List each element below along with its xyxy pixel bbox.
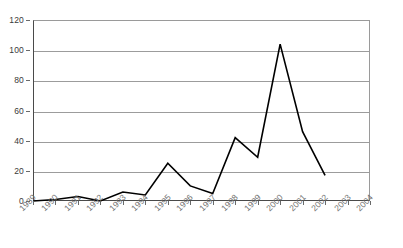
series-line-layer [33, 20, 370, 201]
y-tick-mark-20 [26, 171, 30, 172]
x-axis-labels: 1989199019911992199319941995199619971998… [33, 206, 370, 248]
y-tick-mark-60 [26, 111, 30, 112]
y-tick-mark-40 [26, 141, 30, 142]
y-tick-mark-100 [26, 50, 30, 51]
y-tick-label-20: 20 [14, 166, 24, 176]
y-tick-mark-80 [26, 80, 30, 81]
y-tick-label-60: 60 [14, 106, 24, 116]
y-tick-mark-120 [26, 20, 30, 21]
y-tick-label-120: 120 [9, 15, 24, 25]
y-tick-label-80: 80 [14, 75, 24, 85]
y-tick-label-100: 100 [9, 45, 24, 55]
line-chart-figure: 020406080100120 198919901991199219931994… [0, 0, 403, 248]
data-series-line [33, 44, 325, 201]
y-axis: 020406080100120 [0, 20, 30, 201]
y-tick-label-40: 40 [14, 136, 24, 146]
